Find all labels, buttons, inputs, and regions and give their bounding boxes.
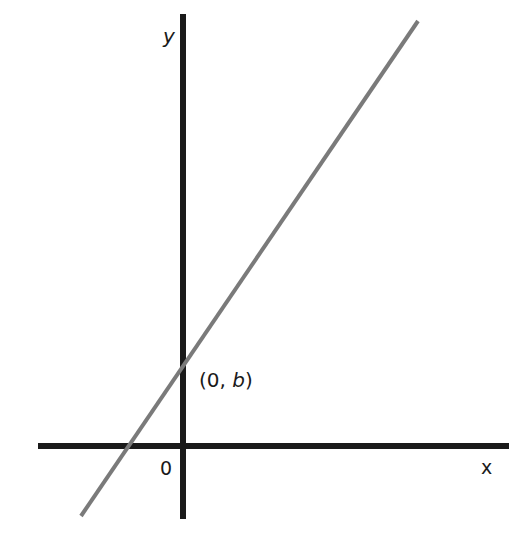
origin-label: 0 bbox=[160, 459, 172, 478]
intercept-label-var: b bbox=[232, 368, 245, 392]
sloped-line bbox=[81, 21, 418, 516]
y-axis-label: y bbox=[163, 26, 175, 46]
intercept-label-close: ) bbox=[245, 368, 253, 392]
x-axis-label: x bbox=[481, 458, 492, 477]
coordinate-diagram bbox=[0, 0, 531, 537]
y-intercept-label: (0, b) bbox=[199, 370, 253, 390]
intercept-label-open: (0, bbox=[199, 368, 232, 392]
